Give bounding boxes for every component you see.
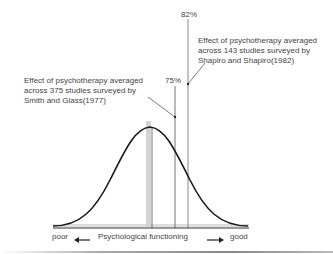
bottom-separator [0,251,333,253]
smith-glass-line-1: Effect of psychotherapy averaged [24,76,143,86]
shapiro-dot [187,83,189,85]
smith-glass-dot [174,116,176,118]
mean-band [146,121,151,227]
shapiro-leader [188,63,205,84]
shapiro-annotation: Effect of psychotherapy averaged across … [198,36,317,66]
shapiro-line-2: across 143 studies surveyed by [198,46,317,56]
smith-glass-annotation: Effect of psychotherapy averaged across … [24,76,143,106]
axis-left-label: poor [52,232,68,241]
arrow-left-icon [74,237,79,243]
axis-right-label: good [230,232,248,241]
marker-82-label: 82% [181,10,197,19]
arrow-right-icon [219,237,224,243]
shapiro-line-1: Effect of psychotherapy averaged [198,36,317,46]
smith-glass-leader [148,97,175,117]
smith-glass-line-3: Smith and Glass(1977) [24,96,143,106]
shapiro-line-3: Shapiro and Shapiro(1982) [198,56,317,66]
marker-75-label: 75% [165,76,181,85]
smith-glass-line-2: across 375 studies surveyed by [24,86,143,96]
axis-title: Psychological functioning [98,232,188,241]
